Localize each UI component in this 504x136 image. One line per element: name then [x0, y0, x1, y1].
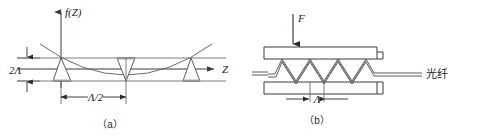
lower-plate	[264, 82, 377, 94]
grating-tooth-1-shade	[53, 80, 71, 81]
panel-b-diagram: F 光纤 Λ （b）	[252, 0, 504, 136]
panel-b-caption: （b）	[304, 115, 330, 126]
panel-a-caption: （a）	[97, 119, 123, 130]
amplitude-label: 2Λ	[9, 64, 22, 76]
grating-tooth-3-shade	[183, 80, 200, 81]
fiber-label: 光纤	[426, 67, 448, 81]
x-axis-label: Z	[222, 63, 229, 75]
force-label: F	[297, 12, 305, 24]
lower-plate-step	[377, 82, 383, 94]
upper-plate	[264, 47, 377, 59]
period-label-b: Λ	[313, 93, 321, 105]
period-label-a: Λ/2	[87, 91, 104, 103]
figure-root: f(Z) Z 2Λ Λ/2 （a）	[0, 0, 504, 136]
panel-a-diagram: f(Z) Z 2Λ Λ/2 （a）	[0, 0, 252, 136]
y-axis-label: f(Z)	[65, 6, 82, 19]
upper-plate-step	[377, 52, 383, 59]
